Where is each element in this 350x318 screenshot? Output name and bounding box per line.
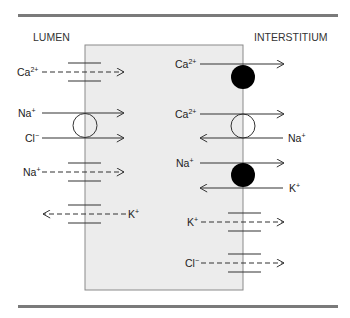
ion-label-ca: Ca2+: [17, 66, 38, 78]
epithelial-cell: [85, 45, 243, 290]
ion-label-cl: Cl−: [25, 132, 39, 144]
ion-label-k: K+: [289, 182, 300, 194]
membrane-transport-diagram: LUMEN INTERSTITIUM Ca2+ Na+ Cl− Na+ K+ C…: [0, 0, 350, 318]
ion-label-na: Na+: [23, 166, 41, 178]
ion-label-na: Na+: [288, 132, 306, 144]
interstitium-label: INTERSTITIUM: [254, 31, 328, 43]
lumen-label: LUMEN: [33, 31, 70, 43]
ion-label-na: Na+: [18, 107, 36, 119]
bottom-rule: [18, 305, 338, 308]
top-rule: [18, 14, 338, 17]
